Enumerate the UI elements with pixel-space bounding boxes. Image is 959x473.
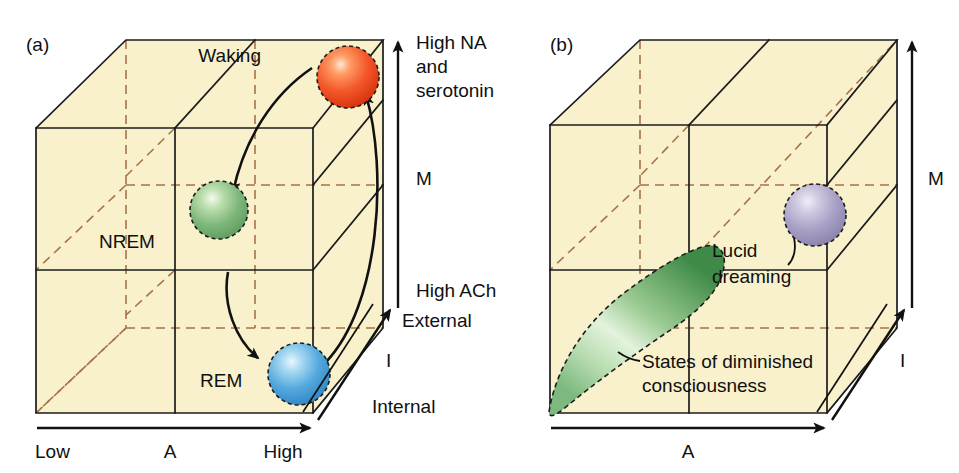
panel-a-i-axis-high-label: External <box>402 310 472 331</box>
panel-b-m-axis-label: M <box>928 168 944 189</box>
sphere-lucid-dreaming <box>784 184 846 246</box>
panel-a-a-axis-low-label: Low <box>35 441 70 462</box>
label-diminished-consciousness-line2: consciousness <box>642 375 767 396</box>
sphere-rem <box>268 343 330 405</box>
panel-a-i-axis-low-label: Internal <box>372 396 435 417</box>
state-label-rem: REM <box>200 370 242 391</box>
label-lucid-dreaming-line1: Lucid <box>712 240 757 261</box>
panel-a-a-axis-label: A <box>164 441 177 462</box>
panel-b-i-axis-label: I <box>900 350 905 371</box>
panel-a-m-axis-low-label: High ACh <box>416 280 496 301</box>
figure-root: (a) Waking NREM REM <box>0 0 959 473</box>
sphere-waking <box>317 46 379 108</box>
panel-b-label: (b) <box>550 34 573 55</box>
panel-a-m-axis-high-line1: High NA <box>416 32 487 53</box>
panel-a: (a) Waking NREM REM <box>26 32 496 462</box>
label-lucid-dreaming-line2: dreaming <box>712 266 791 287</box>
state-label-nrem: NREM <box>99 231 155 252</box>
state-label-waking: Waking <box>198 45 261 66</box>
panel-a-label: (a) <box>26 34 49 55</box>
aim-state-space-diagram: (a) Waking NREM REM <box>0 0 959 473</box>
label-diminished-consciousness-line1: States of diminished <box>642 351 813 372</box>
panel-a-m-axis-high-line3: serotonin <box>416 80 494 101</box>
panel-a-m-axis-label: M <box>416 168 432 189</box>
panel-b: (b) Lucid dreaming States of diminished … <box>549 34 944 462</box>
panel-b-a-axis-label: A <box>682 441 695 462</box>
panel-a-m-axis-high-line2: and <box>416 56 448 77</box>
panel-a-i-axis-label: I <box>386 350 391 371</box>
panel-a-a-axis-high-label: High <box>263 441 302 462</box>
sphere-nrem <box>190 181 248 239</box>
